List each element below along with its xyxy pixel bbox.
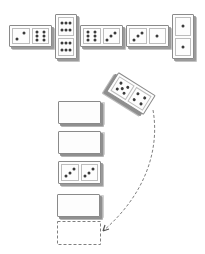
dashed-arrow-path	[103, 110, 155, 231]
arrow-layer	[0, 0, 205, 254]
domino-diagram	[0, 0, 205, 254]
empty-slot-outline	[58, 222, 101, 245]
